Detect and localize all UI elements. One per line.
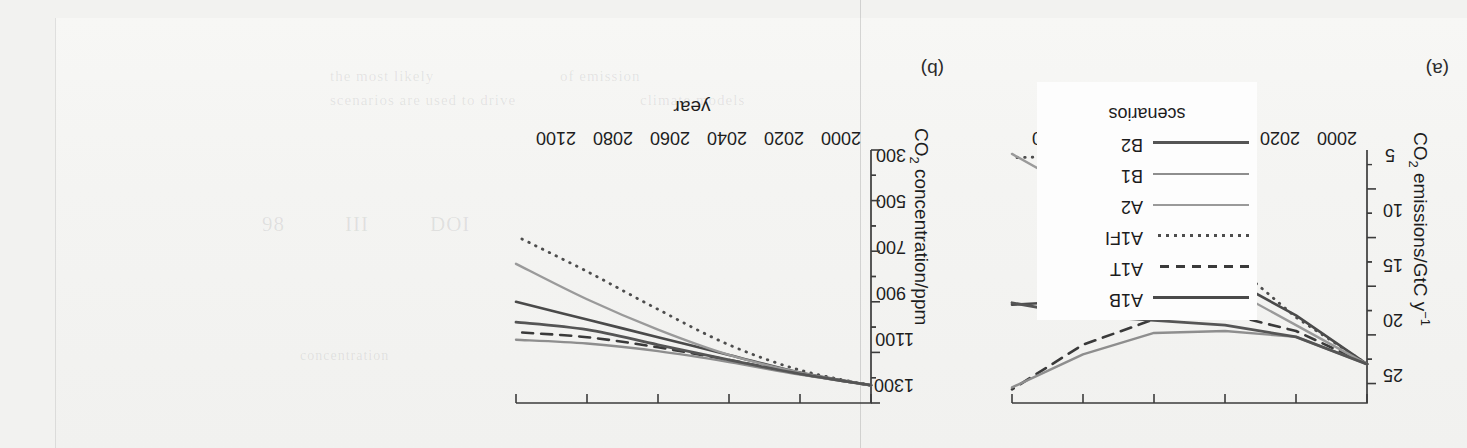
legend-swatch-a1b-icon (1153, 296, 1249, 299)
series-line-a1t (1012, 313, 1367, 389)
legend-swatch-a1t-icon (1153, 265, 1249, 268)
legend-item-b1[interactable]: B1 (1045, 158, 1249, 188)
legend-item-b2[interactable]: B2 (1045, 127, 1249, 157)
legend-label-a1t: A1T (1053, 258, 1143, 279)
legend-item-a1fi[interactable]: A1FI (1045, 220, 1249, 250)
legend-label-a1fi: A1FI (1053, 227, 1143, 248)
legend-label-b1: B1 (1053, 165, 1143, 186)
legend-label-a2: A2 (1053, 196, 1143, 217)
legend-swatch-a2-icon (1153, 204, 1249, 206)
legend-swatch-b2-icon (1153, 141, 1249, 144)
legend-label-b2: B2 (1053, 134, 1143, 155)
panel-b-plot-area (402, 0, 962, 448)
series-line-b2 (516, 322, 871, 385)
legend-item-a1b[interactable]: A1B (1045, 282, 1249, 312)
legend-swatch-a1fi-icon (1153, 234, 1249, 237)
legend-item-a1t[interactable]: A1T (1045, 251, 1249, 281)
series-line-a2 (516, 264, 871, 385)
legend-box: scenarios A1BA1TA1FIA2B1B2 (1037, 82, 1257, 320)
axis-frame (516, 150, 871, 403)
legend-title: scenarios (1037, 103, 1257, 124)
legend-label-a1b: A1B (1053, 289, 1143, 310)
series-line-a1fi (516, 236, 871, 385)
panel-b: (b) CO2 concentration/ppm year 300 500 7… (402, 0, 962, 448)
figure-rotated-180: (a) CO2 emissions/GtC y−1 year 5 10 15 2… (0, 0, 1467, 448)
legend-item-a2[interactable]: A2 (1045, 189, 1249, 219)
legend-swatch-b1-icon (1153, 173, 1249, 175)
